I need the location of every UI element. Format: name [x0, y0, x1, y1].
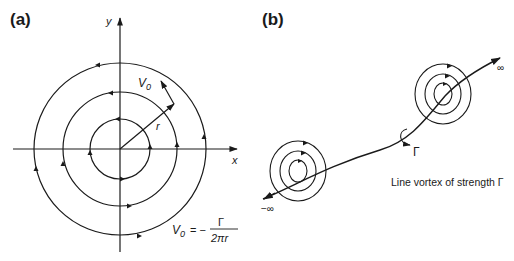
svg-text:2πr: 2πr — [210, 232, 229, 244]
plus-infinity-label: ∞ — [497, 62, 504, 73]
minus-infinity-label: −∞ — [261, 203, 274, 214]
vortex-line-lower-arrow — [264, 193, 275, 199]
panel-b: (b) Γ ∞ −∞ — [261, 10, 504, 214]
upper-vortex-streamlines — [415, 64, 471, 124]
svg-text:V0: V0 — [172, 223, 185, 239]
radius-vector — [120, 104, 174, 149]
panel-a-label: (a) — [10, 10, 31, 29]
lower-vortex-streamlines — [270, 141, 326, 201]
panel-a: (a) x y r — [10, 10, 238, 252]
svg-text:= −: = − — [190, 224, 206, 236]
svg-text:Γ: Γ — [218, 216, 224, 228]
y-axis-label: y — [105, 15, 113, 27]
x-axis-label: x — [231, 154, 238, 166]
velocity-vector — [161, 81, 174, 104]
caption: Line vortex of strength Γ — [391, 176, 504, 188]
radius-label: r — [156, 120, 161, 132]
velocity-label: V0 — [138, 76, 151, 92]
vortex-diagram: (a) x y r — [0, 0, 514, 261]
gamma-label: Γ — [413, 145, 420, 159]
velocity-formula: V0 = − Γ 2πr — [172, 216, 238, 244]
panel-b-label: (b) — [262, 10, 284, 29]
